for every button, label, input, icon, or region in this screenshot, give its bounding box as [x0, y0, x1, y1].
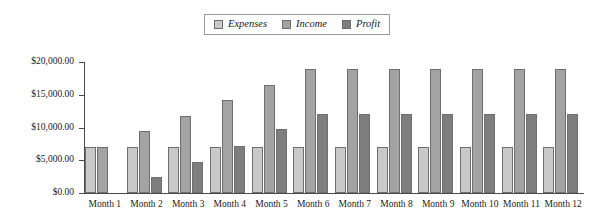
- legend-label: Income: [296, 19, 327, 30]
- legend-entry[interactable]: Profit: [342, 19, 380, 30]
- bar-expenses[interactable]: [210, 147, 221, 193]
- legend-label: Expenses: [228, 19, 267, 30]
- chart-legend: ExpensesIncomeProfit: [204, 14, 390, 35]
- bar-expenses[interactable]: [335, 147, 346, 193]
- bar-expenses[interactable]: [377, 147, 388, 193]
- y-axis-label: $10,000.00: [0, 123, 74, 133]
- bar-profit[interactable]: [151, 177, 162, 193]
- bar-profit[interactable]: [234, 146, 245, 193]
- bar-expenses[interactable]: [293, 147, 304, 193]
- bar-income[interactable]: [430, 69, 441, 193]
- legend-entry[interactable]: Expenses: [214, 19, 267, 30]
- y-axis-tick: [79, 193, 84, 194]
- bar-expenses[interactable]: [460, 147, 471, 193]
- bar-profit[interactable]: [484, 114, 495, 193]
- bar-group: [251, 62, 293, 193]
- y-axis-label: $5,000.00: [0, 155, 74, 165]
- bar-income[interactable]: [555, 69, 566, 193]
- bar-group: [459, 62, 501, 193]
- bar-expenses[interactable]: [127, 147, 138, 193]
- bar-income[interactable]: [222, 100, 233, 193]
- bar-group: [84, 62, 126, 193]
- bar-expenses[interactable]: [418, 147, 429, 193]
- y-axis-label: $15,000.00: [0, 90, 74, 100]
- bar-group: [376, 62, 418, 193]
- bar-expenses[interactable]: [252, 147, 263, 193]
- bar-group: [126, 62, 168, 193]
- y-axis-label: $0.00: [0, 188, 74, 198]
- bar-group: [209, 62, 251, 193]
- bar-profit[interactable]: [276, 129, 287, 193]
- x-axis-line: [84, 193, 584, 194]
- bar-profit[interactable]: [317, 114, 328, 193]
- bar-group: [542, 62, 584, 193]
- bar-income[interactable]: [180, 116, 191, 193]
- bar-income[interactable]: [389, 69, 400, 193]
- bar-profit[interactable]: [401, 114, 412, 193]
- bar-profit[interactable]: [526, 114, 537, 193]
- bar-group: [292, 62, 334, 193]
- bar-group: [417, 62, 459, 193]
- bar-expenses[interactable]: [85, 147, 96, 193]
- legend-swatch-income: [282, 20, 291, 29]
- bar-group: [501, 62, 543, 193]
- bar-income[interactable]: [472, 69, 483, 193]
- y-axis-label: $20,000.00: [0, 57, 74, 67]
- bar-income[interactable]: [305, 69, 316, 193]
- bar-income[interactable]: [514, 69, 525, 193]
- bar-group: [334, 62, 376, 193]
- legend-label: Profit: [356, 19, 380, 30]
- bar-profit[interactable]: [192, 162, 203, 193]
- bar-group: [167, 62, 209, 193]
- bar-profit[interactable]: [359, 114, 370, 193]
- bar-profit[interactable]: [567, 114, 578, 193]
- bar-income[interactable]: [264, 85, 275, 193]
- bar-profit[interactable]: [442, 114, 453, 193]
- legend-swatch-expenses: [214, 20, 223, 29]
- bar-income[interactable]: [97, 147, 108, 193]
- legend-entry[interactable]: Income: [282, 19, 327, 30]
- plot-area: [84, 62, 584, 193]
- bar-income[interactable]: [139, 131, 150, 193]
- bar-chart: ExpensesIncomeProfit $0.00$5,000.00$10,0…: [0, 0, 609, 223]
- bar-expenses[interactable]: [502, 147, 513, 193]
- bar-expenses[interactable]: [543, 147, 554, 193]
- bar-expenses[interactable]: [168, 147, 179, 193]
- legend-swatch-profit: [342, 20, 351, 29]
- bar-income[interactable]: [347, 69, 358, 193]
- x-axis-label: Month 12: [532, 199, 594, 210]
